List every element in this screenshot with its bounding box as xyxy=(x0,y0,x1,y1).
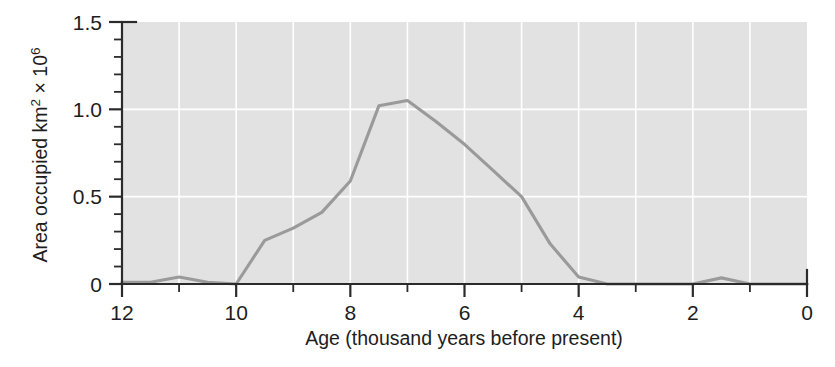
chart-figure: 00.51.01.5 121086420 Age (thousand years… xyxy=(0,0,835,367)
x-tick-label: 0 xyxy=(801,301,813,324)
x-tick-label: 10 xyxy=(224,301,247,324)
y-tick-label: 0 xyxy=(90,273,102,296)
area-occupied-line-chart: 00.51.01.5 121086420 Age (thousand years… xyxy=(0,0,835,367)
y-tick-label: 1.5 xyxy=(73,11,102,34)
x-tick-label: 2 xyxy=(687,301,699,324)
y-axis-title-superscript-6: 6 xyxy=(28,47,43,55)
x-tick-label: 12 xyxy=(110,301,133,324)
x-axis-title: Age (thousand years before present) xyxy=(305,327,623,349)
x-tick-label: 4 xyxy=(573,301,585,324)
x-tick-label: 6 xyxy=(459,301,471,324)
y-tick-label: 1.0 xyxy=(73,98,102,121)
y-axis-title-mid: × 10 xyxy=(29,55,51,99)
x-tick-label: 8 xyxy=(344,301,356,324)
y-axis-title-lead: Area occupied km xyxy=(29,106,51,262)
y-tick-label: 0.5 xyxy=(73,185,102,208)
y-axis-title: Area occupied km2 × 106 xyxy=(28,47,51,262)
y-axis-title-superscript-2: 2 xyxy=(28,99,43,107)
